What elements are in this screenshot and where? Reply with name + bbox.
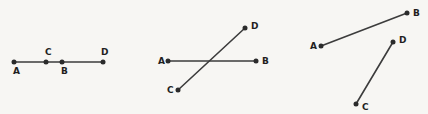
figure-1-point-d <box>101 60 106 65</box>
geometry-diagram-svg: ACBDABCDABCD <box>0 0 428 114</box>
figure-1-point-a <box>12 60 17 65</box>
figure-3-point-b <box>405 11 410 16</box>
figure-1-label-d: D <box>101 47 109 57</box>
figure-3: ABCD <box>310 8 420 112</box>
figure-3-label-b: B <box>413 8 420 18</box>
figure-2-point-d <box>243 26 248 31</box>
figure-1-label-a: A <box>13 66 20 76</box>
figure-1-label-b: B <box>61 66 68 76</box>
geometry-figure-canvas: ACBDABCDABCD <box>0 0 428 114</box>
figure-2-label-c: C <box>167 85 174 95</box>
figure-2-label-a: A <box>158 56 165 66</box>
figure-1-label-c: C <box>45 47 52 57</box>
figure-3-label-c: C <box>362 102 369 112</box>
figure-2: ABCD <box>158 21 269 95</box>
figure-3-segment-CD <box>356 42 393 104</box>
figure-3-point-d <box>391 40 396 45</box>
figure-2-label-b: B <box>262 56 269 66</box>
figure-2-label-d: D <box>251 21 259 31</box>
figure-3-label-a: A <box>310 41 317 51</box>
figure-2-point-b <box>254 59 259 64</box>
figure-3-point-a <box>319 44 324 49</box>
figure-1-point-b <box>60 60 65 65</box>
figure-3-point-c <box>354 102 359 107</box>
figure-1-point-c <box>44 60 49 65</box>
figure-2-point-a <box>166 59 171 64</box>
figure-3-label-d: D <box>399 35 407 45</box>
figure-2-point-c <box>176 88 181 93</box>
figure-1: ACBD <box>12 47 109 76</box>
figure-2-segment-CD <box>178 28 245 90</box>
